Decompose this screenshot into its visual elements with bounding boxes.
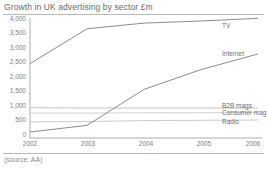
y-tick-label: 2,000: [2, 73, 26, 80]
chart-title: Growth in UK advertising by sector £m: [4, 2, 153, 12]
x-tick-label: 2002: [17, 140, 43, 147]
y-tick-label: 1,000: [2, 102, 26, 109]
footer-divider: [3, 153, 264, 154]
x-tick-label: 2003: [75, 140, 101, 147]
x-tick-label: 2005: [191, 140, 217, 147]
y-tick-label: 2,500: [2, 58, 26, 65]
series-label-consumer-mags: Consumer mags: [222, 109, 267, 116]
y-tick-label: 500: [2, 116, 26, 123]
y-tick-label: 3,500: [2, 29, 26, 36]
chart-figure: Growth in UK advertising by sector £m 4,…: [0, 0, 267, 173]
x-tick-label: 2006: [240, 140, 266, 147]
y-tick-label: 3,000: [2, 44, 26, 51]
plot-area: [0, 14, 267, 146]
y-tick-label: 0: [2, 131, 26, 138]
source-note: (source: AA): [4, 156, 43, 163]
series-label-tv: TV: [222, 22, 230, 29]
y-tick-label: 4,000: [2, 15, 26, 22]
series-label-radio: Radio: [222, 118, 239, 125]
series-label-internet: Internet: [222, 50, 244, 57]
series-label-b2b-mags: B2B mags: [222, 102, 252, 109]
y-tick-label: 1,500: [2, 87, 26, 94]
x-tick-label: 2004: [133, 140, 159, 147]
